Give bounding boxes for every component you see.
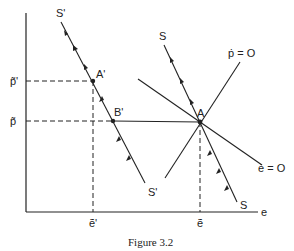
x-axis-label: e bbox=[261, 206, 267, 218]
label-s-prime-top: S' bbox=[56, 7, 65, 19]
s-prime-arrows bbox=[64, 30, 131, 161]
x-tick-e-tilde-prime: ẽ' bbox=[89, 217, 97, 229]
point-b-prime bbox=[111, 119, 115, 123]
label-s-prime-bottom: S' bbox=[148, 186, 157, 198]
point-a-prime bbox=[91, 79, 95, 83]
label-s-bottom: S bbox=[240, 199, 247, 211]
y-tick-p-tilde: p̃ bbox=[10, 115, 16, 127]
label-point-a: A bbox=[197, 107, 205, 119]
label-point-b-prime: B' bbox=[114, 106, 123, 118]
label-s-top: S bbox=[159, 30, 166, 42]
p-dot-zero-line bbox=[165, 62, 240, 178]
phase-diagram: S' S' S S ṗ = O ė = O A A' B' p̃' p̃ ẽ' … bbox=[0, 0, 294, 251]
label-p-dot-zero: ṗ = O bbox=[228, 47, 256, 59]
label-point-a-prime: A' bbox=[96, 68, 105, 80]
b-prime-to-a-line bbox=[113, 121, 200, 122]
label-e-dot-zero: ė = O bbox=[258, 162, 286, 174]
y-tick-p-tilde-prime: p̃' bbox=[10, 75, 18, 87]
figure-caption: Figure 3.2 bbox=[128, 236, 173, 248]
point-a bbox=[198, 120, 203, 125]
x-tick-e-tilde: ẽ bbox=[197, 217, 203, 229]
